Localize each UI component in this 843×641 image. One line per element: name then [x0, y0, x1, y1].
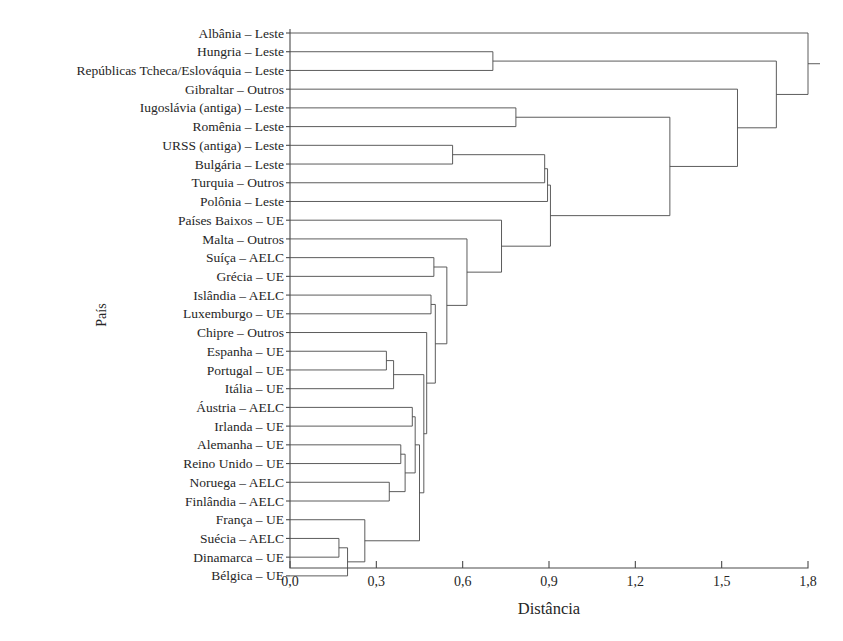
- x-axis-tick-label: 1,8: [799, 574, 817, 589]
- dendrogram-link: [516, 117, 670, 215]
- dendrogram-link: [290, 33, 808, 94]
- leaf-label: Portugal – UE: [207, 363, 284, 378]
- x-axis-group: 0,00,30,60,91,21,51,8: [281, 29, 817, 589]
- leaf-label: Itália – UE: [225, 381, 284, 396]
- leaf-label: Reino Unido – UE: [183, 456, 284, 471]
- dendrogram-links-group: [290, 33, 820, 576]
- dendrogram-link: [290, 351, 386, 370]
- leaf-label: Bulgária – Leste: [195, 157, 284, 172]
- dendrogram-link: [290, 538, 339, 557]
- dendrogram-link: [427, 304, 436, 383]
- dendrogram-link: [389, 454, 405, 491]
- x-axis-tick-label: 0,3: [368, 574, 386, 589]
- x-axis-tick-label: 0,6: [454, 574, 472, 589]
- leaf-label: Espanha – UE: [207, 344, 284, 359]
- leaf-label: Repúblicas Tcheca/Eslováquia – Leste: [76, 63, 284, 78]
- dendrogram-link: [290, 295, 431, 314]
- leaf-label: Malta – Outros: [202, 232, 284, 247]
- x-axis-title: Distância: [518, 599, 581, 618]
- leaf-label: Irlanda – UE: [214, 419, 284, 434]
- leaf-label: URSS (antiga) – Leste: [162, 138, 284, 153]
- leaf-label: França – UE: [216, 512, 284, 527]
- dendrogram-link: [290, 333, 427, 434]
- x-axis-tick-label: 1,2: [627, 574, 645, 589]
- dendrogram-link: [290, 169, 548, 202]
- dendrogram-link: [290, 220, 502, 272]
- leaf-label: Noruega – AELC: [190, 475, 284, 490]
- leaf-label: Países Baixos – UE: [178, 213, 284, 228]
- leaf-label: Polônia – Leste: [200, 194, 284, 209]
- dendrogram-link: [405, 417, 415, 473]
- dendrogram-link: [290, 52, 493, 71]
- leaf-label: Iugoslávia (antiga) – Leste: [140, 100, 284, 115]
- dendrogram-link: [290, 445, 401, 464]
- leaf-label: Hungria – Leste: [197, 44, 284, 59]
- leaf-label: Dinamarca – UE: [193, 550, 284, 565]
- leaf-label: Grécia – UE: [217, 269, 284, 284]
- leaf-label: Alemanha – UE: [197, 437, 284, 452]
- leaf-label: Finlândia – AELC: [185, 494, 284, 509]
- dendrogram-link: [434, 267, 447, 344]
- leaf-label: Suíça – AELC: [206, 250, 284, 265]
- leaf-label: Islândia – AELC: [193, 288, 284, 303]
- dendrogram-link: [290, 361, 394, 389]
- y-axis-title: País: [94, 303, 109, 326]
- dendrogram-link: [290, 145, 453, 164]
- leaf-label: Romênia – Leste: [193, 119, 284, 134]
- dendrogram-link: [290, 258, 434, 277]
- dendrogram-link: [290, 482, 389, 501]
- x-axis-tick-label: 1,5: [713, 574, 731, 589]
- dendrogram-figure: Albânia – LesteHungria – LesteRepúblicas…: [0, 0, 843, 641]
- leaf-label: Suécia – AELC: [200, 531, 284, 546]
- leaf-label: Gibraltar – Outros: [185, 82, 284, 97]
- dendrogram-link: [290, 520, 365, 562]
- dendrogram-link: [365, 445, 420, 541]
- dendrogram-link: [290, 407, 412, 426]
- dendrogram-svg: Albânia – LesteHungria – LesteRepúblicas…: [0, 0, 843, 641]
- dendrogram-link: [493, 61, 776, 128]
- leaf-label: Turquia – Outros: [191, 175, 284, 190]
- dendrogram-link: [290, 155, 545, 183]
- x-axis-tick-label: 0,9: [540, 574, 558, 589]
- leaf-label: Bélgica – UE: [211, 568, 284, 583]
- leaf-label: Chipre – Outros: [197, 325, 284, 340]
- dendrogram-link: [290, 108, 516, 127]
- leaf-label: Áustria – AELC: [196, 400, 284, 415]
- leaf-label: Luxemburgo – UE: [183, 306, 284, 321]
- leaf-label: Albânia – Leste: [199, 26, 284, 41]
- dendrogram-link: [502, 185, 551, 246]
